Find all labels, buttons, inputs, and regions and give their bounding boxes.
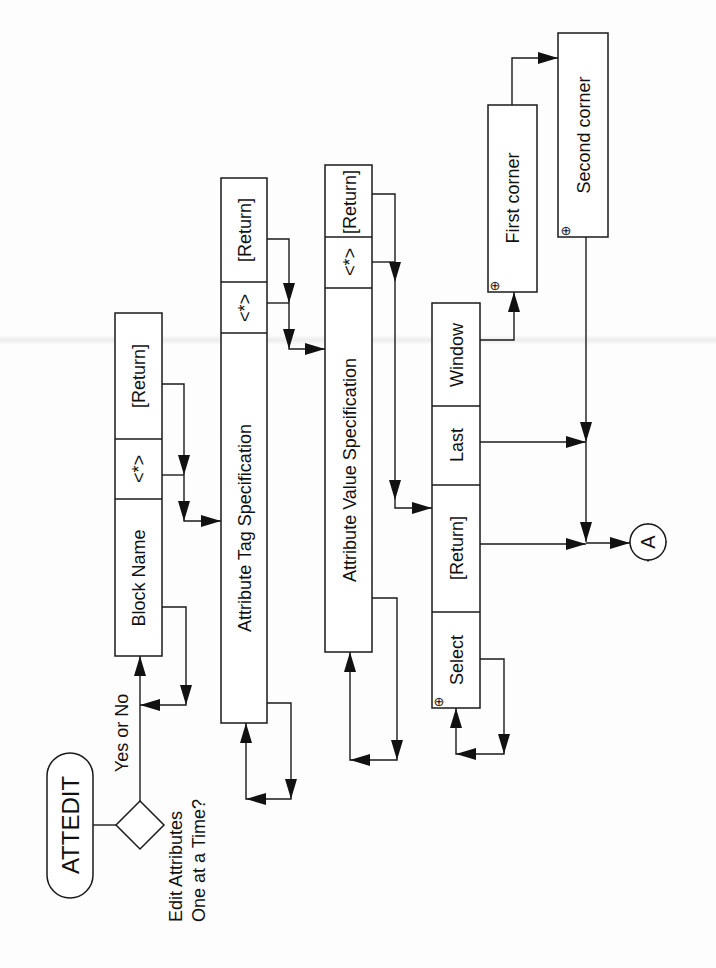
second-corner-pick-icon: ⊕ bbox=[561, 223, 572, 238]
decision-answer-label: Yes or No bbox=[112, 694, 132, 772]
block-name-return-option[interactable]: [Return] bbox=[129, 344, 149, 408]
attribute-value-default-option[interactable]: <*> bbox=[340, 248, 360, 276]
step-first-corner: ⊕ First corner bbox=[488, 105, 537, 293]
attribute-value-field[interactable]: Attribute Value Specification bbox=[340, 358, 360, 582]
select-return-option[interactable]: [Return] bbox=[447, 516, 467, 580]
diagram-page: ATTEDIT Yes or No Edit Attributes One at… bbox=[0, 0, 716, 968]
connector-label: A bbox=[637, 535, 659, 549]
step-second-corner: ⊕ Second corner bbox=[558, 33, 608, 238]
block-name-field[interactable]: Block Name bbox=[129, 529, 149, 626]
decision-question-line2: One at a Time? bbox=[189, 799, 209, 922]
second-corner-point[interactable]: Second corner bbox=[574, 76, 594, 193]
decision-question-line1: Edit Attributes bbox=[166, 811, 186, 922]
attribute-tag-field[interactable]: Attribute Tag Specification bbox=[235, 424, 255, 632]
first-corner-point[interactable]: First corner bbox=[503, 152, 523, 243]
prompt-attribute-value: Attribute Value Specification <*> [Retur… bbox=[325, 165, 372, 652]
off-page-connector-a: A bbox=[630, 524, 666, 561]
start-label: ATTEDIT bbox=[57, 776, 84, 875]
attribute-value-return-option[interactable]: [Return] bbox=[340, 170, 360, 234]
block-name-default-option[interactable]: <*> bbox=[129, 455, 149, 483]
start-terminator: ATTEDIT bbox=[47, 753, 93, 898]
attribute-tag-default-option[interactable]: <*> bbox=[235, 294, 255, 322]
prompt-block-name: Block Name <*> [Return] bbox=[115, 313, 162, 656]
flowchart: ATTEDIT Yes or No Edit Attributes One at… bbox=[0, 0, 716, 968]
decision-diamond bbox=[116, 801, 164, 849]
first-corner-pick-icon: ⊕ bbox=[490, 278, 501, 293]
select-window-option[interactable]: Window bbox=[447, 322, 467, 387]
select-option[interactable]: Select bbox=[447, 635, 467, 685]
select-pick-icon: ⊕ bbox=[434, 694, 445, 709]
attribute-tag-return-option[interactable]: [Return] bbox=[235, 198, 255, 262]
select-last-option[interactable]: Last bbox=[447, 428, 467, 462]
prompt-attribute-tag: Attribute Tag Specification <*> [Return] bbox=[221, 178, 267, 723]
prompt-select-objects: ⊕ Select [Return] Last Window bbox=[432, 303, 480, 709]
